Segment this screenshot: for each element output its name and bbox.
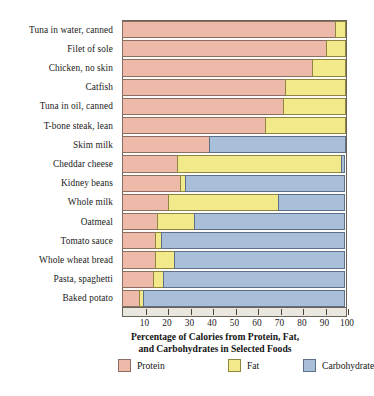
bar-segment-carbohydrate bbox=[278, 194, 346, 211]
bar-segment-protein bbox=[122, 136, 210, 153]
bar-row bbox=[122, 250, 347, 269]
x-axis-tick-label: 80 bbox=[297, 318, 306, 328]
legend-label: Fat bbox=[247, 360, 259, 371]
axis-title-line-1: Percentage of Calories from Protein, Fat… bbox=[70, 331, 360, 342]
x-axis-tick bbox=[258, 309, 259, 315]
x-axis-tick bbox=[281, 309, 282, 315]
bar-segment-carbohydrate bbox=[209, 136, 346, 153]
bar-segment-protein bbox=[122, 232, 156, 249]
bar-row bbox=[122, 58, 347, 77]
x-axis-tick bbox=[146, 309, 147, 315]
stacked-bar bbox=[122, 290, 347, 307]
y-axis-label: Baked potato bbox=[0, 289, 118, 308]
bar-row bbox=[122, 39, 347, 58]
chart-legend: ProteinFatCarbohydrate bbox=[118, 359, 364, 379]
x-axis-tick bbox=[236, 309, 237, 315]
bar-row bbox=[122, 270, 347, 289]
legend-item-carbohydrate[interactable]: Carbohydrate bbox=[303, 359, 374, 372]
bar-segment-fat bbox=[335, 21, 346, 38]
x-axis-tick-label: 10 bbox=[140, 318, 149, 328]
stacked-bar bbox=[122, 175, 347, 192]
bar-segment-fat bbox=[326, 40, 346, 57]
y-axis-label: Whole milk bbox=[0, 193, 118, 212]
legend-item-protein[interactable]: Protein bbox=[118, 359, 165, 372]
bar-segment-protein bbox=[122, 175, 181, 192]
x-axis-tick-label: 60 bbox=[252, 318, 261, 328]
y-axis-label: Skim milk bbox=[0, 135, 118, 154]
stacked-bar bbox=[122, 117, 347, 134]
x-axis-tick-label: 20 bbox=[162, 318, 171, 328]
x-axis-tick-labels: 102030405060708090100 bbox=[0, 318, 364, 332]
y-axis-label: Filet of sole bbox=[0, 39, 118, 58]
y-axis-label: Tomato sauce bbox=[0, 231, 118, 250]
legend-label: Protein bbox=[137, 360, 165, 371]
x-axis-tick bbox=[348, 309, 349, 315]
bar-segment-fat bbox=[265, 117, 346, 134]
bar-row bbox=[122, 193, 347, 212]
stacked-bar bbox=[122, 232, 347, 249]
bar-segment-protein bbox=[122, 194, 169, 211]
bar-segment-protein bbox=[122, 21, 336, 38]
axis-title-line-2: and Carbohydrates in Selected Foods bbox=[70, 343, 360, 354]
bar-segment-fat bbox=[283, 98, 346, 115]
bar-segment-carbohydrate bbox=[143, 290, 346, 307]
stacked-bar bbox=[122, 98, 347, 115]
y-axis-label: Kidney beans bbox=[0, 174, 118, 193]
x-axis-tick bbox=[191, 309, 192, 315]
y-axis-label: Chicken, no skin bbox=[0, 58, 118, 77]
stacked-bar bbox=[122, 251, 347, 268]
bar-row bbox=[122, 212, 347, 231]
plot-area bbox=[122, 20, 347, 308]
stacked-bar bbox=[122, 213, 347, 230]
stacked-bar bbox=[122, 79, 347, 96]
bar-segment-carbohydrate bbox=[341, 155, 346, 172]
bar-segment-protein bbox=[122, 271, 154, 288]
legend-label: Carbohydrate bbox=[322, 360, 374, 371]
bar-row bbox=[122, 78, 347, 97]
bar-segment-carbohydrate bbox=[161, 232, 346, 249]
legend-swatch-icon bbox=[303, 359, 316, 372]
bar-segment-fat bbox=[177, 155, 341, 172]
x-axis-tick bbox=[303, 309, 304, 315]
bar-rows bbox=[122, 20, 347, 308]
bar-segment-protein bbox=[122, 213, 158, 230]
y-axis-label: T-bone steak, lean bbox=[0, 116, 118, 135]
bar-row bbox=[122, 174, 347, 193]
x-axis-band bbox=[122, 308, 347, 317]
x-axis-tick-label: 70 bbox=[275, 318, 284, 328]
y-axis-label: Tuna in oil, canned bbox=[0, 97, 118, 116]
x-axis-tick bbox=[326, 309, 327, 315]
stacked-bar bbox=[122, 136, 347, 153]
bar-segment-protein bbox=[122, 40, 327, 57]
bar-segment-protein bbox=[122, 117, 266, 134]
bar-segment-protein bbox=[122, 290, 140, 307]
stacked-bar bbox=[122, 271, 347, 288]
x-axis-tick-label: 100 bbox=[340, 318, 354, 328]
bar-segment-protein bbox=[122, 59, 313, 76]
stacked-bar bbox=[122, 155, 347, 172]
x-axis-tick-label: 90 bbox=[320, 318, 329, 328]
bar-row bbox=[122, 116, 347, 135]
y-axis-label: Whole wheat bread bbox=[0, 250, 118, 269]
y-axis-label: Catfish bbox=[0, 78, 118, 97]
bar-segment-fat bbox=[168, 194, 278, 211]
stacked-bar bbox=[122, 194, 347, 211]
bar-segment-fat bbox=[157, 213, 195, 230]
bar-segment-fat bbox=[312, 59, 346, 76]
y-axis-category-labels: Tuna in water, cannedFilet of soleChicke… bbox=[0, 20, 118, 308]
x-axis-tick bbox=[213, 309, 214, 315]
bar-row bbox=[122, 135, 347, 154]
y-axis-label: Tuna in water, canned bbox=[0, 20, 118, 39]
y-axis-label: Cheddar cheese bbox=[0, 154, 118, 173]
bar-row bbox=[122, 97, 347, 116]
bar-segment-fat bbox=[155, 251, 175, 268]
bar-segment-carbohydrate bbox=[194, 213, 345, 230]
legend-item-fat[interactable]: Fat bbox=[228, 359, 259, 372]
legend-swatch-icon bbox=[228, 359, 241, 372]
bar-segment-protein bbox=[122, 155, 178, 172]
x-axis-tick-label: 40 bbox=[207, 318, 216, 328]
legend-swatch-icon bbox=[118, 359, 131, 372]
x-axis-tick-label: 50 bbox=[230, 318, 239, 328]
bar-row bbox=[122, 289, 347, 308]
